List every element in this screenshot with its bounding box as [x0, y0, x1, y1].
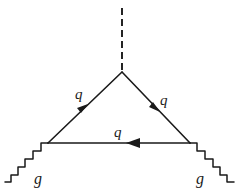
- label-quark-right: q: [160, 92, 168, 108]
- quark-left-line: [48, 72, 122, 143]
- label-gluon-right: g: [196, 170, 204, 188]
- feynman-diagram-canvas: q q q g g: [0, 0, 239, 195]
- feynman-diagram: q q q g g: [0, 0, 239, 195]
- quark-right-arrow-icon: [149, 102, 160, 112]
- quark-bottom-arrow-icon: [126, 138, 140, 148]
- quark-right-line: [122, 72, 190, 143]
- label-quark-bottom: q: [114, 124, 122, 140]
- label-gluon-left: g: [34, 170, 42, 188]
- label-quark-left: q: [75, 86, 83, 102]
- quark-left-arrow-icon: [77, 104, 88, 113]
